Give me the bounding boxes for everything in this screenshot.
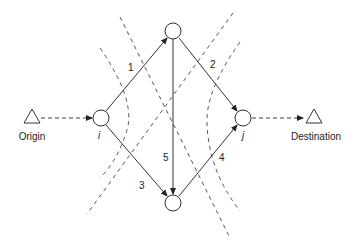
node-i-label: i [98, 130, 101, 141]
destination-triangle-icon [306, 109, 322, 123]
edge-4 [179, 125, 237, 196]
node-j [235, 110, 251, 126]
node-bottom [165, 195, 181, 211]
edge-2-label: 2 [210, 59, 216, 70]
destination-label: Destination [291, 131, 341, 142]
edge-1 [106, 38, 167, 111]
edge-4-label: 4 [219, 152, 225, 163]
edge-2 [179, 38, 237, 111]
edge-5-label: 5 [163, 152, 169, 163]
node-i [93, 110, 109, 126]
node-j-label: j [240, 130, 245, 141]
origin-triangle-icon [24, 109, 40, 123]
edge-1-label: 1 [128, 62, 134, 73]
cut-line-ascending [87, 13, 233, 214]
edge-3-label: 3 [139, 180, 145, 191]
node-top [165, 23, 181, 39]
origin-label: Origin [19, 131, 46, 142]
edge-3 [106, 125, 167, 196]
network-diagram: Origin Destination i j 1 2 3 4 5 [0, 0, 357, 250]
